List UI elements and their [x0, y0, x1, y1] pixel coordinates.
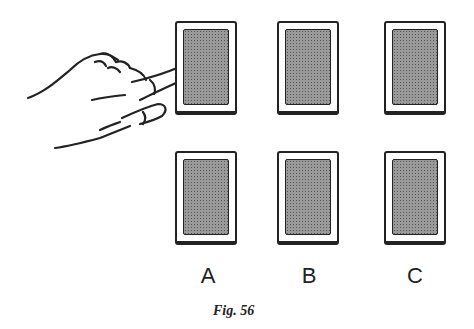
card-c-top[interactable] [384, 21, 446, 115]
card-back-icon [183, 29, 229, 105]
card-c-bottom[interactable] [384, 151, 446, 245]
card-b-bottom[interactable] [277, 151, 339, 245]
card-a-top[interactable] [175, 21, 237, 115]
card-back-icon [392, 159, 438, 235]
card-b-top[interactable] [277, 21, 339, 115]
card-back-icon [392, 29, 438, 105]
card-back-icon [183, 159, 229, 235]
column-label-a: A [193, 263, 223, 289]
figure-caption: Fig. 56 [213, 303, 254, 319]
column-label-b: B [294, 263, 324, 289]
card-back-icon [285, 159, 331, 235]
card-back-icon [285, 29, 331, 105]
column-label-c: C [400, 263, 430, 289]
card-a-bottom[interactable] [175, 151, 237, 245]
